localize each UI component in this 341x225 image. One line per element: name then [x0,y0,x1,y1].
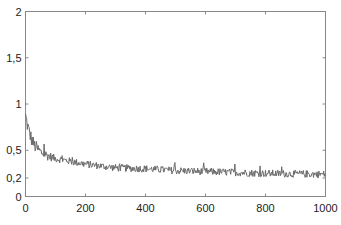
y-tick-label: 1 [15,98,21,110]
x-tick-label: 0 [22,202,28,214]
y-tick-label: 0,5 [6,144,21,156]
y-axis: 00,20,511,52 [6,6,325,203]
x-tick-label: 400 [136,202,154,214]
x-tick-label: 200 [76,202,94,214]
data-series-line [26,114,326,178]
y-tick-label: 0 [15,191,21,203]
x-tick-label: 600 [196,202,214,214]
x-tick-label: 1000 [313,202,337,214]
x-axis: 02004006008001000 [22,12,337,214]
y-tick-label: 2 [15,6,21,18]
y-tick-label: 1,5 [6,52,21,64]
line-chart: 00,20,511,52 02004006008001000 [0,0,341,225]
x-tick-label: 800 [256,202,274,214]
y-tick-label: 0,2 [6,172,21,184]
